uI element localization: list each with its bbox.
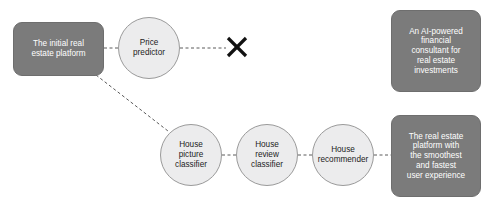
node-house-review-classifier[interactable]: House review classifier — [236, 124, 298, 186]
node-label: House picture classifier — [161, 140, 221, 169]
node-label: House review classifier — [237, 140, 297, 169]
node-house-recommender[interactable]: House recommender — [312, 124, 374, 186]
node-price-predictor[interactable]: Price predictor — [118, 17, 180, 79]
edge-platform-to-picture — [96, 75, 168, 131]
node-label: House recommender — [313, 145, 373, 164]
node-initial-real-estate-platform[interactable]: The initial real estate platform — [13, 22, 104, 76]
node-label: Price predictor — [119, 38, 179, 57]
node-real-estate-platform-smoothest[interactable]: The real estate platform with the smooth… — [391, 115, 481, 197]
node-label: The real estate platform with the smooth… — [397, 132, 475, 180]
node-label: An AI-powered financial consultant for r… — [397, 27, 475, 75]
node-house-picture-classifier[interactable]: House picture classifier — [160, 124, 222, 186]
diagram-canvas: The initial real estate platform Price p… — [0, 0, 496, 206]
node-label: The initial real estate platform — [19, 39, 98, 58]
cross-mark-icon — [224, 34, 250, 60]
node-ai-powered-financial-consultant[interactable]: An AI-powered financial consultant for r… — [391, 10, 481, 92]
